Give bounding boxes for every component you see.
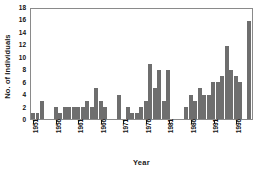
bar xyxy=(81,107,85,119)
bar xyxy=(162,101,166,119)
bar xyxy=(225,46,229,119)
x-tick-label-text: 1971 xyxy=(123,119,130,133)
bar xyxy=(126,107,130,119)
bar xyxy=(157,70,161,119)
bar xyxy=(202,95,206,119)
plot-area xyxy=(30,8,253,120)
y-tick-label: 14 xyxy=(19,30,26,37)
bar xyxy=(135,113,139,119)
bar xyxy=(54,107,58,119)
x-tick-label-text: 1956 xyxy=(56,119,63,133)
bar xyxy=(216,82,220,119)
bar xyxy=(67,107,71,119)
bar xyxy=(234,76,238,119)
x-tick-label-text: 1966 xyxy=(101,119,108,133)
x-axis-title: Year xyxy=(30,158,253,167)
y-tick-label: 16 xyxy=(19,17,26,24)
bar xyxy=(76,107,80,119)
bar-chart-figure: No. of Individuals 246810121416180 19511… xyxy=(0,0,259,174)
y-tick-label: 4 xyxy=(22,92,26,99)
y-tick-label: 10 xyxy=(19,55,26,62)
y-tick-label: 12 xyxy=(19,42,26,49)
bar xyxy=(211,82,215,119)
bar xyxy=(184,107,188,119)
x-tick-label-text: 1991 xyxy=(214,119,221,133)
y-tick-label: 0 xyxy=(22,117,26,124)
bar xyxy=(90,107,94,119)
y-axis-title-text: No. of Individuals xyxy=(3,34,12,98)
bar xyxy=(198,88,202,119)
bar xyxy=(144,101,148,119)
x-tick-label-text: 1976 xyxy=(146,119,153,133)
x-axis-tick-labels: 1951195619611966197119761981198619911996 xyxy=(30,124,253,154)
bar xyxy=(148,64,152,119)
bar xyxy=(139,107,143,119)
bar xyxy=(238,82,242,119)
x-tick-label-text: 1951 xyxy=(33,119,40,133)
y-tick-label: 18 xyxy=(19,5,26,12)
bar xyxy=(103,107,107,119)
x-tick-label-text: 1981 xyxy=(169,119,176,133)
bar xyxy=(63,107,67,119)
bar xyxy=(85,101,89,119)
bar xyxy=(40,101,44,119)
y-tick-label: 8 xyxy=(22,67,26,74)
x-tick-label-text: 1986 xyxy=(191,119,198,133)
bar xyxy=(220,76,224,119)
y-tick-label: 2 xyxy=(22,104,26,111)
bar xyxy=(99,101,103,119)
bars-container xyxy=(31,9,252,119)
bar xyxy=(166,70,170,119)
y-axis-title: No. of Individuals xyxy=(0,0,14,133)
bar xyxy=(94,88,98,119)
bar xyxy=(189,95,193,119)
bar xyxy=(153,88,157,119)
y-axis-tick-labels: 246810121416180 xyxy=(14,8,28,120)
bar xyxy=(207,95,211,119)
bar xyxy=(72,107,76,119)
bar xyxy=(130,113,134,119)
bar xyxy=(229,70,233,119)
bar xyxy=(247,21,251,119)
x-tick-label-text: 1996 xyxy=(236,119,243,133)
bar xyxy=(117,95,121,119)
bar xyxy=(193,101,197,119)
x-tick-label-text: 1961 xyxy=(78,119,85,133)
x-tick-label: 1996 xyxy=(221,124,251,134)
y-tick-label: 6 xyxy=(22,79,26,86)
